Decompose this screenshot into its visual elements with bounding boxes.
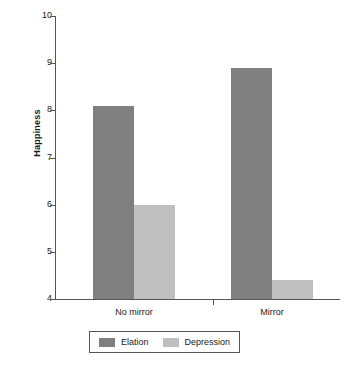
y-tick-10: 10: [29, 16, 61, 17]
legend-label: Elation: [121, 337, 149, 348]
legend-item-elation: Elation: [99, 337, 149, 348]
bar-mirror-depression: [272, 280, 313, 299]
y-tick-mark: [50, 158, 55, 159]
bar-no-mirror-depression: [134, 205, 175, 299]
y-tick-6: 6: [29, 205, 61, 206]
x-tick-mid: [213, 300, 214, 305]
legend-swatch-icon: [99, 338, 115, 347]
y-tick-mark: [50, 16, 55, 17]
legend-swatch-icon: [163, 338, 179, 347]
y-tick-8: 8: [29, 110, 61, 111]
y-tick-4: 4: [29, 299, 61, 300]
x-axis-label-mirror: Mirror: [217, 306, 327, 318]
x-axis-line: [55, 299, 340, 300]
y-tick-mark: [50, 252, 55, 253]
y-tick-label: 7: [32, 152, 52, 163]
y-tick-label: 4: [32, 293, 52, 304]
y-tick-label: 6: [32, 199, 52, 210]
bar-mirror-elation: [231, 68, 272, 299]
y-tick-9: 9: [29, 63, 61, 64]
x-axis-label-no-mirror: No mirror: [79, 306, 189, 318]
legend-item-depression: Depression: [163, 337, 231, 348]
y-tick-label: 9: [32, 57, 52, 68]
y-tick-label: 10: [32, 10, 52, 21]
y-tick-mark: [50, 205, 55, 206]
y-tick-mark: [50, 63, 55, 64]
plot-area: 10 9 8 7 6 5 4: [55, 16, 340, 300]
y-tick-mark: [50, 299, 55, 300]
y-tick-label: 5: [32, 246, 52, 257]
y-tick-7: 7: [29, 158, 61, 159]
bar-chart: Happiness 10 9 8 7 6 5 4: [0, 0, 356, 366]
y-tick-5: 5: [29, 252, 61, 253]
y-tick-label: 8: [32, 104, 52, 115]
bar-no-mirror-elation: [93, 106, 134, 299]
legend-label: Depression: [185, 337, 231, 348]
y-tick-mark: [50, 110, 55, 111]
legend: Elation Depression: [89, 331, 240, 353]
